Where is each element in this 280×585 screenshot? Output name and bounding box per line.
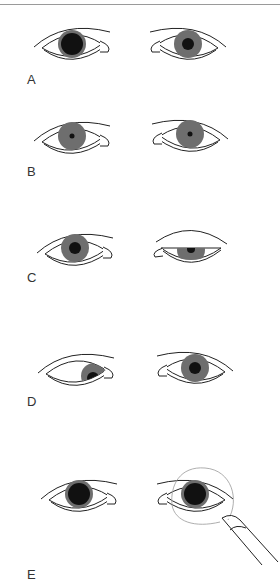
- eye-e-right: [157, 480, 233, 511]
- panel-label-a: A: [27, 72, 36, 87]
- eye-d-right: [157, 352, 233, 383]
- panel-e: [41, 468, 278, 565]
- eye-d-left-deviated: [38, 354, 114, 389]
- panel-b: [34, 120, 228, 153]
- panel-label-e: E: [27, 567, 36, 582]
- panel-label-d: D: [27, 394, 36, 409]
- penlight-icon: [222, 515, 278, 565]
- eye-a-left: [34, 28, 110, 59]
- eye-b-right: [152, 120, 228, 151]
- eye-diagram: [0, 0, 280, 585]
- panel-a: [34, 28, 226, 59]
- eye-a-right: [150, 28, 226, 59]
- eye-c-right-ptosis: [154, 230, 227, 264]
- panel-c: [37, 230, 227, 265]
- panel-d: [38, 352, 233, 389]
- panel-label-c: C: [27, 270, 36, 285]
- eye-e-left: [41, 480, 117, 511]
- eye-c-left: [37, 234, 113, 265]
- eye-b-left: [34, 122, 110, 153]
- panel-label-b: B: [27, 164, 36, 179]
